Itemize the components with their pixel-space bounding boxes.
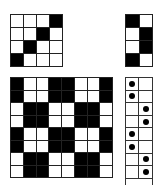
bottom-left-grid-cell <box>75 153 87 165</box>
bottom-left-grid-cell <box>37 91 49 103</box>
bottom-left-grid-cell <box>88 116 100 128</box>
bottom-left-grid-cell <box>100 166 112 178</box>
bottom-left-grid-cell <box>62 103 74 115</box>
bottom-left-grid-cell <box>24 141 36 153</box>
dot-icon <box>143 106 149 112</box>
top-left-grid-cell <box>37 41 49 53</box>
dot-icon <box>143 156 149 162</box>
dot-grid-cell <box>139 103 152 116</box>
top-left-grid <box>10 14 63 67</box>
bottom-left-grid-cell <box>62 128 74 140</box>
top-left-grid-cell <box>50 41 62 53</box>
bottom-left-grid-cell <box>100 128 112 140</box>
bottom-left-grid-cell <box>49 128 61 140</box>
bottom-left-grid-cell <box>88 91 100 103</box>
bottom-left-grid-cell <box>24 153 36 165</box>
dot-grid-cell <box>139 78 152 91</box>
dot-grid-cell <box>139 166 152 179</box>
bottom-left-grid-cell <box>88 128 100 140</box>
bottom-left-grid-cell <box>62 116 74 128</box>
bottom-left-grid-cell <box>100 78 112 90</box>
bottom-left-grid-cell <box>49 166 61 178</box>
bottom-left-grid-cell <box>24 128 36 140</box>
bottom-left-grid-cell <box>100 141 112 153</box>
top-right-grid-cell <box>140 41 153 53</box>
bottom-left-grid-cell <box>24 91 36 103</box>
bottom-left-grid-cell <box>24 166 36 178</box>
dot-grid-cell <box>126 128 139 141</box>
bottom-left-grid-cell <box>49 78 61 90</box>
top-right-grid <box>125 14 153 67</box>
bottom-left-grid-cell <box>88 141 100 153</box>
bottom-left-grid-cell <box>88 166 100 178</box>
bottom-left-grid-cell <box>37 103 49 115</box>
top-right-grid-cell <box>126 15 139 27</box>
bottom-left-grid-cell <box>88 153 100 165</box>
dot-icon <box>129 81 135 87</box>
bottom-left-grid-cell <box>49 153 61 165</box>
bottom-left-grid-cell <box>11 78 23 90</box>
bottom-left-grid-cell <box>37 141 49 153</box>
bottom-left-grid-cell <box>49 141 61 153</box>
top-right-grid-cell <box>140 54 153 66</box>
bottom-left-grid-cell <box>11 153 23 165</box>
top-left-grid-cell <box>50 54 62 66</box>
bottom-left-grid-cell <box>75 128 87 140</box>
top-left-grid-cell <box>50 28 62 40</box>
bottom-left-grid-cell <box>11 103 23 115</box>
dot-grid-cell <box>139 141 152 154</box>
bottom-left-grid-cell <box>62 78 74 90</box>
dot-grid-cell <box>126 78 139 91</box>
top-left-grid-cell <box>37 54 49 66</box>
dot-icon <box>129 131 135 137</box>
bottom-left-grid-cell <box>11 91 23 103</box>
bottom-left-grid-cell <box>62 141 74 153</box>
top-right-grid-cell <box>126 41 139 53</box>
top-left-grid-cell <box>37 28 49 40</box>
bottom-left-grid-cell <box>75 91 87 103</box>
bottom-left-grid-cell <box>37 166 49 178</box>
dot-grid-cell <box>139 154 152 167</box>
top-left-grid-cell <box>24 28 36 40</box>
dot-grid-cell <box>126 154 139 167</box>
bottom-left-grid-cell <box>100 103 112 115</box>
bottom-left-grid-cell <box>37 78 49 90</box>
top-left-grid-cell <box>37 15 49 27</box>
bottom-left-grid-cell <box>11 166 23 178</box>
bottom-left-grid-cell <box>100 116 112 128</box>
dot-grid-cell <box>126 116 139 129</box>
top-left-grid-cell <box>24 15 36 27</box>
dot-icon <box>143 169 149 175</box>
bottom-left-grid-cell <box>37 116 49 128</box>
bottom-left-grid-cell <box>75 78 87 90</box>
bottom-left-grid <box>10 77 113 178</box>
bottom-left-grid-cell <box>37 128 49 140</box>
bottom-left-grid-cell <box>49 103 61 115</box>
top-right-grid-cell <box>140 15 153 27</box>
bottom-left-grid-cell <box>75 141 87 153</box>
bottom-left-grid-cell <box>49 116 61 128</box>
top-left-grid-cell <box>11 54 23 66</box>
dot-grid-cell <box>126 141 139 154</box>
top-left-grid-cell <box>11 28 23 40</box>
bottom-left-grid-cell <box>88 78 100 90</box>
bottom-left-grid-cell <box>24 103 36 115</box>
bottom-left-grid-cell <box>88 103 100 115</box>
dot-icon <box>129 144 135 150</box>
dot-grid-cell <box>139 91 152 104</box>
top-left-grid-cell <box>50 15 62 27</box>
bottom-left-grid-cell <box>100 91 112 103</box>
bottom-left-grid-cell <box>62 166 74 178</box>
bottom-left-grid-cell <box>24 78 36 90</box>
top-left-grid-cell <box>24 54 36 66</box>
bottom-left-grid-cell <box>75 116 87 128</box>
bottom-left-grid-cell <box>37 153 49 165</box>
dot-grid-cell <box>139 128 152 141</box>
bottom-left-grid-cell <box>75 103 87 115</box>
top-right-grid-cell <box>126 54 139 66</box>
dot-grid-cell <box>126 166 139 179</box>
bottom-left-grid-cell <box>62 91 74 103</box>
bottom-left-grid-cell <box>11 128 23 140</box>
dot-icon <box>143 119 149 125</box>
top-left-grid-cell <box>11 15 23 27</box>
